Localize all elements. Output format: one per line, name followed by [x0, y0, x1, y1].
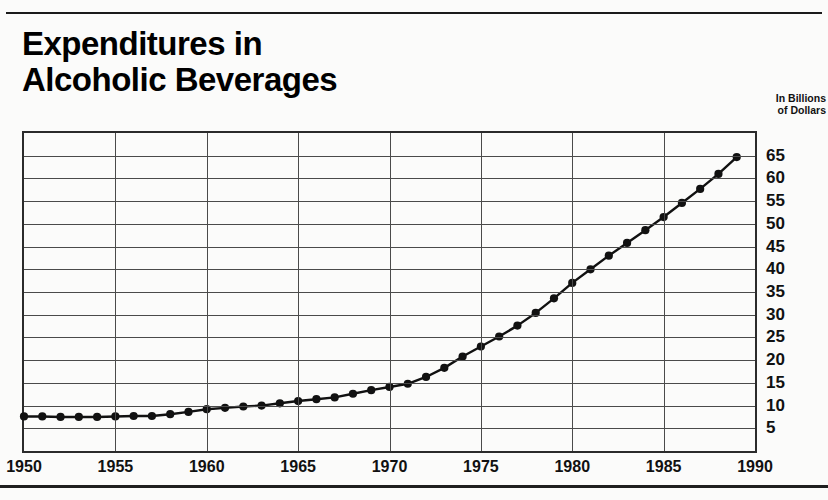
series-line	[24, 157, 737, 417]
plot-area	[22, 131, 757, 453]
data-point-marker	[312, 395, 320, 403]
y-tick-label: 40	[766, 259, 812, 279]
plot-inner	[24, 133, 755, 451]
vertical-gridline	[572, 133, 573, 451]
data-point-marker	[331, 393, 339, 401]
y-tick-label: 65	[766, 146, 812, 166]
x-tick-label: 1950	[0, 458, 59, 476]
data-point-marker	[550, 294, 558, 302]
data-point-marker	[148, 412, 156, 420]
chart-title: Expenditures in Alcoholic Beverages	[22, 26, 642, 98]
data-point-marker	[349, 390, 357, 398]
vertical-gridline	[298, 133, 299, 451]
y-tick-label: 55	[766, 191, 812, 211]
y-tick-label: 15	[766, 373, 812, 393]
data-point-marker	[221, 404, 229, 412]
vertical-gridline	[207, 133, 208, 451]
vertical-gridline	[115, 133, 116, 451]
footer-rule	[0, 485, 828, 488]
x-tick-label: 1970	[355, 458, 425, 476]
data-point-marker	[422, 373, 430, 381]
vertical-gridline	[481, 133, 482, 451]
data-point-marker	[714, 170, 722, 178]
vertical-gridline	[664, 133, 665, 451]
y-tick-label: 25	[766, 327, 812, 347]
header-rule	[6, 12, 822, 14]
y-tick-label: 5	[766, 418, 812, 438]
x-tick-label: 1975	[446, 458, 516, 476]
x-tick-label: 1985	[629, 458, 699, 476]
data-point-marker	[20, 412, 28, 420]
data-point-marker	[696, 185, 704, 193]
data-point-marker	[93, 413, 101, 421]
y-tick-label: 35	[766, 282, 812, 302]
data-point-marker	[733, 153, 741, 161]
y-axis-unit-caption: In Billions of Dollars	[762, 92, 826, 116]
x-tick-label: 1990	[720, 458, 790, 476]
x-tick-label: 1965	[263, 458, 333, 476]
x-tick-label: 1980	[537, 458, 607, 476]
data-point-marker	[166, 410, 174, 418]
data-point-marker	[440, 364, 448, 372]
y-tick-label: 10	[766, 396, 812, 416]
y-tick-label: 50	[766, 214, 812, 234]
y-tick-label: 45	[766, 237, 812, 257]
data-point-marker	[38, 412, 46, 420]
data-point-marker	[75, 413, 83, 421]
y-tick-label: 30	[766, 305, 812, 325]
data-point-marker	[641, 226, 649, 234]
x-tick-label: 1955	[80, 458, 150, 476]
data-point-marker	[367, 386, 375, 394]
data-point-marker	[605, 252, 613, 260]
y-tick-label: 20	[766, 350, 812, 370]
data-point-marker	[56, 413, 64, 421]
data-point-marker	[513, 322, 521, 330]
data-point-marker	[184, 408, 192, 416]
x-tick-label: 1960	[172, 458, 242, 476]
vertical-gridline	[390, 133, 391, 451]
data-point-marker	[130, 412, 138, 420]
y-tick-label: 60	[766, 168, 812, 188]
data-point-marker	[623, 239, 631, 247]
